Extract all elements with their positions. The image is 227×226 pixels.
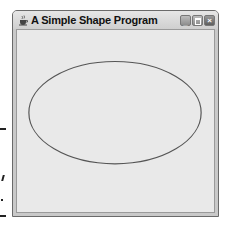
- margin-mark: [1, 199, 3, 201]
- title-bar[interactable]: A Simple Shape Program _ ×: [13, 11, 218, 29]
- minimize-button[interactable]: _: [180, 15, 191, 26]
- java-cup-icon[interactable]: [17, 14, 29, 26]
- window-controls: _ ×: [180, 15, 215, 26]
- minimize-icon: _: [181, 18, 190, 27]
- window-title: A Simple Shape Program: [31, 14, 158, 26]
- page-margin-marks: [0, 0, 12, 226]
- margin-mark: [1, 175, 5, 181]
- margin-mark: [0, 215, 6, 217]
- close-button[interactable]: ×: [204, 15, 215, 26]
- app-window: A Simple Shape Program _ ×: [12, 10, 219, 217]
- maximize-button[interactable]: [192, 15, 203, 26]
- ellipse-shape: [29, 61, 201, 163]
- margin-mark: [0, 128, 6, 130]
- drawing-panel: [16, 29, 215, 213]
- close-icon: ×: [205, 16, 214, 25]
- maximize-icon: [195, 18, 201, 25]
- shape-canvas: [17, 30, 214, 212]
